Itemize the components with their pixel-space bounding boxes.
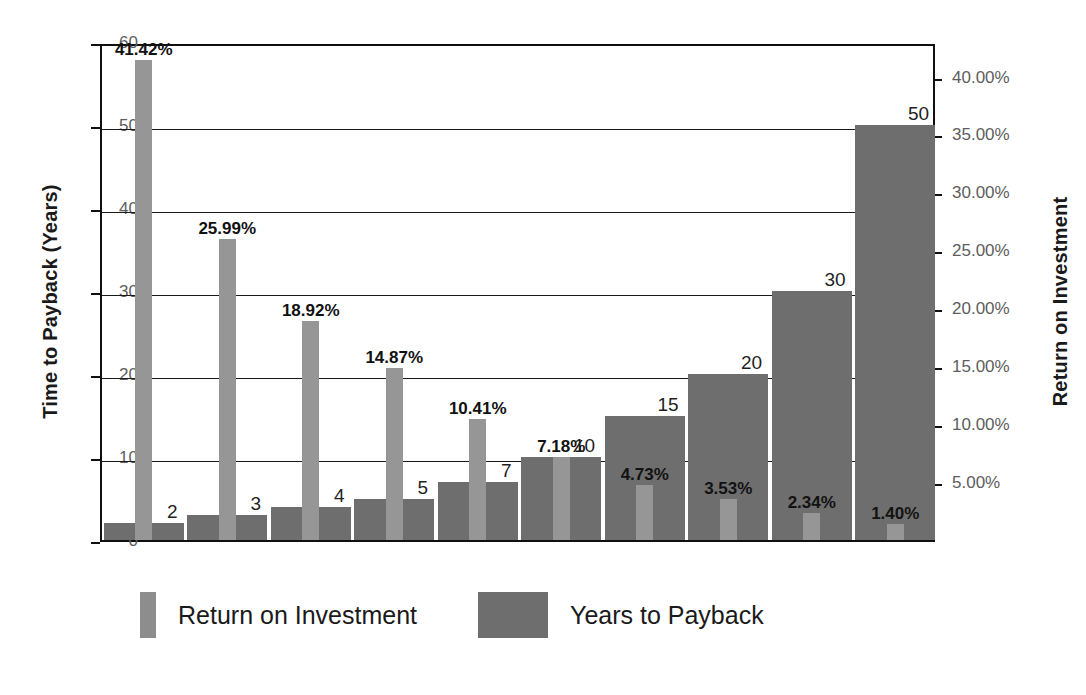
data-label-roi: 2.34% [774,493,850,513]
legend-item-return-on-investment: Return on Investment [140,592,417,638]
bar-return-on-investment [720,499,737,540]
legend-swatch-payback-icon [478,592,548,638]
y-axis-right-tick-label: 30.00% [952,183,1010,203]
bar-years-to-payback [855,125,935,540]
y-axis-right-tick-label: 15.00% [952,357,1010,377]
data-label-years: 4 [271,485,345,507]
data-label-years: 5 [354,477,428,499]
plot-inner: 41.42%225.99%318.92%414.87%510.41%77.18%… [102,46,933,540]
bar-return-on-investment [386,368,403,540]
y-axis-right-tick [935,484,942,486]
data-label-years: 3 [187,493,261,515]
y-axis-right-title: Return on Investment [1049,137,1072,467]
data-label-roi: 25.99% [189,219,265,239]
y-axis-right-tick [935,368,942,370]
y-axis-left-tick [91,210,100,212]
y-axis-left-tick [91,459,100,461]
y-axis-right-tick-label: 40.00% [952,68,1010,88]
y-axis-right-tick-label: 5.00% [952,473,1000,493]
data-label-years: 20 [688,352,762,374]
y-axis-right-tick-label: 25.00% [952,241,1010,261]
bar-return-on-investment [803,513,820,540]
y-axis-right-tick [935,426,942,428]
y-axis-right-tick [935,136,942,138]
y-axis-right-tick-label: 35.00% [952,125,1010,145]
plot-area: 41.42%225.99%318.92%414.87%510.41%77.18%… [100,44,935,542]
y-axis-right-tick-label: 10.00% [952,415,1010,435]
bar-return-on-investment [887,524,904,540]
y-axis-left-tick [91,293,100,295]
y-axis-right-tick [935,79,942,81]
data-label-years: 30 [772,269,846,291]
bar-return-on-investment [636,485,653,540]
y-axis-right-tick [935,252,942,254]
data-label-years: 7 [438,460,512,482]
bar-return-on-investment [553,457,570,540]
y-axis-left-tick [91,376,100,378]
legend-item-years-to-payback: Years to Payback [478,592,764,638]
y-axis-right-tick [935,194,942,196]
y-axis-left-tick [91,127,100,129]
data-label-roi: 4.73% [607,465,683,485]
data-label-roi: 3.53% [690,479,766,499]
legend-label-payback: Years to Payback [570,601,764,630]
data-label-roi: 10.41% [440,399,516,419]
y-axis-left-tick [91,542,100,544]
bar-return-on-investment [135,60,152,540]
gridline [102,129,933,130]
data-label-years: 2 [104,501,178,523]
chart-legend: Return on Investment Years to Payback [100,592,935,652]
data-label-roi: 14.87% [356,348,432,368]
data-label-years: 15 [605,394,679,416]
y-axis-left-title: Time to Payback (Years) [39,137,62,467]
y-axis-left-tick [91,44,100,46]
data-label-roi: 18.92% [273,301,349,321]
legend-label-roi: Return on Investment [178,601,417,630]
data-label-roi: 41.42% [106,40,182,60]
data-label-years: 50 [855,103,929,125]
legend-swatch-roi-icon [140,592,156,638]
data-label-roi: 1.40% [857,504,933,524]
bar-return-on-investment [302,321,319,540]
chart-page: Time to Payback (Years) Return on Invest… [0,0,1086,695]
y-axis-right-tick [935,310,942,312]
y-axis-right-tick-label: 20.00% [952,299,1010,319]
gridline [102,212,933,213]
data-label-years: 10 [521,435,595,457]
